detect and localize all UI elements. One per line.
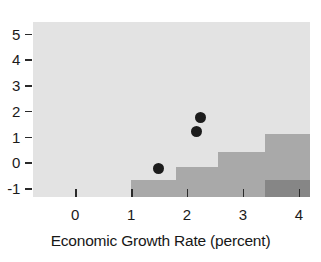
plot-area: [33, 22, 310, 197]
chart-figure: 543210-1 01234 Economic Growth Rate (per…: [0, 0, 321, 262]
x-tick-label: 2: [172, 207, 202, 222]
y-tick-label: -1: [0, 181, 20, 196]
y-tick-label: 1: [0, 130, 20, 145]
y-tick-mark: [25, 85, 32, 87]
y-tick-mark: [25, 137, 32, 139]
data-point: [153, 163, 164, 174]
x-tick-label: 4: [284, 207, 314, 222]
shaded-step-1: [131, 180, 176, 197]
x-tick-mark: [243, 189, 245, 197]
y-tick-mark: [25, 59, 32, 61]
x-tick-label: 3: [228, 207, 258, 222]
y-tick-label: 4: [0, 52, 20, 67]
data-point: [191, 126, 202, 137]
y-tick-label: 0: [0, 155, 20, 170]
shaded-step-2: [176, 167, 218, 197]
x-tick-label: 0: [60, 207, 90, 222]
x-tick-mark: [187, 189, 189, 197]
x-tick-label: 1: [116, 207, 146, 222]
shaded-step-3: [218, 152, 266, 197]
data-point: [195, 112, 206, 123]
y-tick-label: 3: [0, 78, 20, 93]
x-axis-title: Economic Growth Rate (percent): [0, 232, 321, 250]
y-tick-label: 5: [0, 27, 20, 42]
y-tick-mark: [25, 188, 32, 190]
dark-shaded-region: [265, 180, 310, 197]
y-tick-mark: [25, 34, 32, 36]
x-tick-mark: [131, 189, 133, 197]
y-tick-mark: [25, 111, 32, 113]
y-tick-label: 2: [0, 104, 20, 119]
y-tick-mark: [25, 162, 32, 164]
x-tick-mark: [299, 189, 301, 197]
x-tick-mark: [75, 189, 77, 197]
